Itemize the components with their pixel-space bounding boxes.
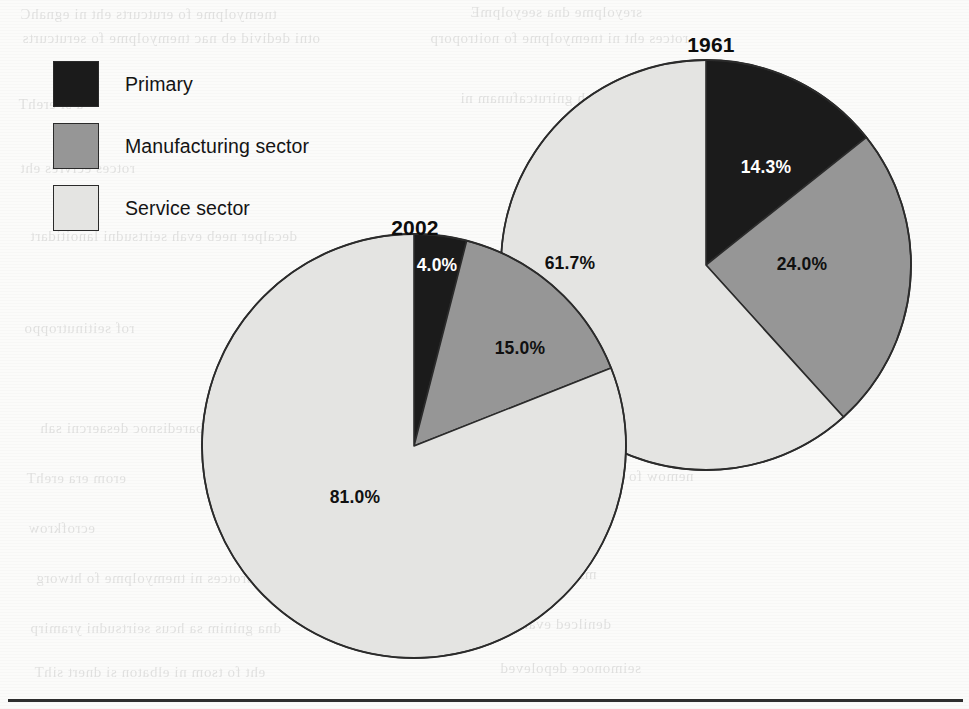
slice-value-label: 4.0% [417, 255, 458, 276]
legend-swatch-manufacturing [53, 123, 99, 169]
pie-title-2002: 2002 [391, 216, 439, 240]
legend: PrimaryManufacturing sectorService secto… [53, 53, 383, 239]
legend-item-label: Service sector [125, 197, 250, 220]
legend-item: Service sector [53, 177, 383, 239]
slice-value-label: 15.0% [495, 338, 546, 359]
slice-value-label: 81.0% [330, 487, 381, 508]
slice-value-label: 61.7% [545, 253, 596, 274]
pie-2002 [202, 234, 626, 658]
bottom-rule-divider [8, 699, 963, 702]
legend-item-label: Manufacturing sector [125, 135, 309, 158]
legend-item: Primary [53, 53, 383, 115]
figure-page: tnemyolpme fo erutcurts eht ni egnahCsre… [0, 0, 969, 709]
slice-value-label: 24.0% [777, 254, 828, 275]
legend-swatch-service [53, 185, 99, 231]
legend-swatch-primary [53, 61, 99, 107]
legend-item: Manufacturing sector [53, 115, 383, 177]
pie-title-1961: 1961 [687, 33, 735, 57]
slice-value-label: 14.3% [741, 157, 792, 178]
legend-item-label: Primary [125, 73, 193, 96]
